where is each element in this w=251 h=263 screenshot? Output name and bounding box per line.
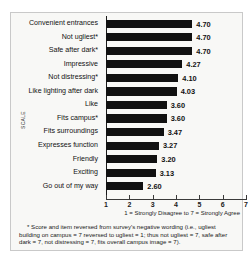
bar-category-label: Exciting (11, 166, 98, 180)
x-tick-label: 5 (192, 201, 206, 208)
bar-category-label: Not distressing* (11, 71, 98, 85)
bar-track: 4.70 (106, 44, 244, 58)
bar (106, 74, 178, 82)
bar-row: Not ugliest*4.70 (11, 31, 244, 45)
bar (106, 60, 182, 68)
figure-frame: SCALE Convenient entrances4.70Not uglies… (10, 12, 243, 251)
bar-row: Fits campus*3.60 (11, 112, 244, 126)
bar (106, 20, 192, 28)
x-tick-mark (153, 195, 154, 200)
bar-row: Safe after dark*4.70 (11, 44, 244, 58)
bar (106, 114, 167, 122)
bar (106, 169, 156, 177)
bar-track: 4.70 (106, 17, 244, 31)
bar-track: 4.27 (106, 58, 244, 72)
bar-row: Like3.60 (11, 98, 244, 112)
bar-value-label: 4.03 (181, 85, 195, 99)
bar (106, 128, 164, 136)
bar-row: Like lighting after dark4.03 (11, 85, 244, 99)
bar (106, 33, 192, 41)
bar-value-label: 4.70 (196, 45, 210, 59)
bar-category-label: Safe after dark* (11, 44, 98, 58)
x-tick-mark (246, 195, 247, 200)
x-tick-label: 3 (146, 201, 160, 208)
bar (106, 87, 177, 95)
bar-track: 4.03 (106, 85, 244, 99)
bar-value-label: 3.27 (163, 139, 177, 153)
footnote: * Score and item reversed from survey's … (19, 223, 238, 246)
bar-value-label: 4.70 (196, 18, 210, 32)
bar-track: 4.10 (106, 71, 244, 85)
bar-track: 3.27 (106, 139, 244, 153)
x-tick-mark (223, 195, 224, 200)
bar-value-label: 3.13 (160, 167, 174, 181)
bar-category-label: Not ugliest* (11, 31, 98, 45)
bar-row: Exciting3.13 (11, 166, 244, 180)
bar-row: Go out of my way2.60 (11, 180, 244, 194)
bar-category-label: Convenient entrances (11, 17, 98, 31)
bar (106, 101, 167, 109)
bar-value-label: 3.47 (168, 126, 182, 140)
x-tick-label: 7 (239, 201, 251, 208)
bar (106, 182, 143, 190)
bar-row: Expresses function3.27 (11, 139, 244, 153)
x-tick-mark (199, 195, 200, 200)
x-tick-label: 4 (169, 201, 183, 208)
x-tick-mark (176, 195, 177, 200)
bar-value-label: 4.10 (182, 72, 196, 86)
bar-track: 3.47 (106, 125, 244, 139)
bar-value-label: 2.60 (147, 180, 161, 194)
bar-track: 3.13 (106, 166, 244, 180)
bar-track: 3.60 (106, 98, 244, 112)
bar-category-label: Like (11, 98, 98, 112)
x-tick-label: 2 (122, 201, 136, 208)
bar-category-label: Go out of my way (11, 180, 98, 194)
bar-category-label: Impressive (11, 58, 98, 72)
bar-category-label: Fits campus* (11, 112, 98, 126)
bar-category-label: Fits surroundings (11, 125, 98, 139)
bar-row: Not distressing*4.10 (11, 71, 244, 85)
bar-value-label: 3.60 (171, 99, 185, 113)
bar-track: 3.20 (106, 153, 244, 167)
bar (106, 47, 192, 55)
bar-chart-plot-area: SCALE Convenient entrances4.70Not uglies… (11, 13, 244, 199)
x-tick-label: 6 (216, 201, 230, 208)
bar-category-label: Like lighting after dark (11, 85, 98, 99)
bar-category-label: Friendly (11, 153, 98, 167)
x-tick-mark (129, 195, 130, 200)
bar-row: Fits surroundings3.47 (11, 125, 244, 139)
bar-track: 4.70 (106, 31, 244, 45)
bar-value-label: 3.60 (171, 112, 185, 126)
bar-row: Convenient entrances4.70 (11, 17, 244, 31)
bar-category-label: Expresses function (11, 139, 98, 153)
x-tick-label: 1 (99, 201, 113, 208)
bar-row: Friendly3.20 (11, 153, 244, 167)
x-axis-caption: 1 = Strongly Disagree to 7 = Strongly Ag… (11, 210, 244, 216)
bar-value-label: 4.27 (186, 58, 200, 72)
bar-value-label: 4.70 (196, 31, 210, 45)
x-tick-mark (106, 195, 107, 200)
bar-track: 3.60 (106, 112, 244, 126)
bar (106, 155, 157, 163)
bar-value-label: 3.20 (161, 153, 175, 167)
bar-track: 2.60 (106, 180, 244, 194)
bar (106, 142, 159, 150)
bar-row: Impressive4.27 (11, 58, 244, 72)
